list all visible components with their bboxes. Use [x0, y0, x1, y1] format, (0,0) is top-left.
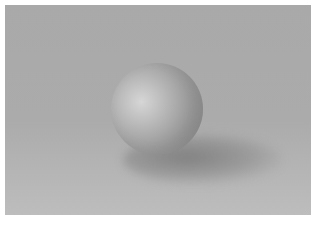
- photo: [5, 5, 311, 215]
- sphere: [111, 63, 203, 155]
